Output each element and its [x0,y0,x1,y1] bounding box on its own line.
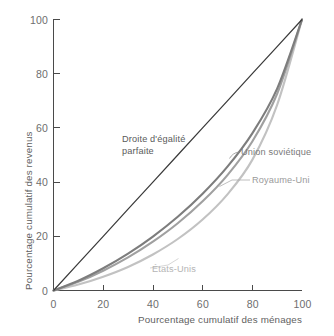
chart-canvas: 100 80 60 40 20 0 0 20 40 60 80 100 Pour… [0,0,334,336]
y-tick-label-40: 40 [36,176,48,188]
us-label: États-Unis [152,264,196,274]
x-tick-label-0: 0 [50,298,56,310]
annotations: Droite d'égalité parfaite Union soviétiq… [122,134,311,274]
y-tick-label-20: 20 [36,230,48,242]
x-axis-title: Pourcentage cumulatif des ménages [138,314,302,325]
x-tick-label-60: 60 [197,298,209,310]
equality-label-line1: Droite d'égalité [122,134,185,144]
x-tick-label-100: 100 [293,298,311,310]
y-tick-label-80: 80 [36,68,48,80]
y-axis-ticks: 100 80 60 40 20 0 [30,14,60,297]
y-axis-title: Pourcentage cumulatif des revenus [23,131,34,290]
y-tick-label-60: 60 [36,122,48,134]
equality-label-line2: parfaite [122,146,154,156]
y-tick-label-100: 100 [30,14,48,26]
lorenz-curve-chart: 100 80 60 40 20 0 0 20 40 60 80 100 Pour… [0,0,334,336]
x-tick-label-80: 80 [247,298,259,310]
y-tick-label-0: 0 [42,285,48,297]
x-tick-label-40: 40 [147,298,159,310]
uk-label: Royaume-Uni [252,175,310,185]
soviet-label: Union soviétique [241,147,311,157]
x-axis-ticks: 0 20 40 60 80 100 [50,285,311,311]
x-tick-label-20: 20 [97,298,109,310]
